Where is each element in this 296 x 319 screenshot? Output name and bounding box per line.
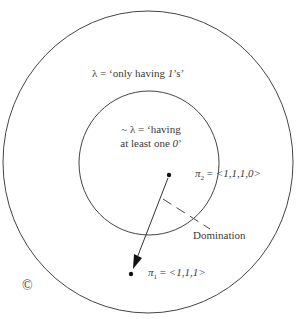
outer-region-label: λ = ‘only having 1’s’ [92, 67, 184, 79]
pi1-point [129, 272, 133, 276]
copyright-mark: © [22, 278, 33, 294]
inner-region-label: ~ λ = ‘having at least one 0’ [108, 122, 194, 150]
inner-region-circle [79, 91, 219, 235]
domination-arrow-shaft [137, 178, 168, 258]
domination-arrow-head [133, 254, 142, 269]
domination-label: Domination [193, 229, 246, 241]
pi2-point [167, 173, 171, 177]
pi2-label: π2 = <1,1,1,0> [195, 167, 261, 182]
pi1-label: π1 = <1,1,1> [148, 266, 206, 281]
